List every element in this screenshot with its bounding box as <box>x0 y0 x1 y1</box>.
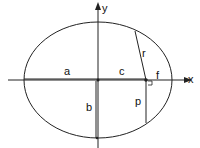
right-angle-mark <box>148 81 152 85</box>
center-point <box>97 79 100 82</box>
focus-point <box>144 78 148 82</box>
bottom-vertex <box>96 137 98 139</box>
label-f: f <box>156 70 159 81</box>
label-a: a <box>64 66 70 77</box>
label-b: b <box>86 102 92 113</box>
label-y: y <box>102 3 108 14</box>
ellipse-diagram: y x a c f r b p <box>0 0 200 148</box>
label-p: p <box>135 96 141 107</box>
label-x: x <box>188 74 194 85</box>
label-c: c <box>119 66 125 77</box>
y-axis-arrow-icon <box>95 2 101 10</box>
label-r: r <box>142 48 146 59</box>
diagram-graphics <box>0 0 200 148</box>
